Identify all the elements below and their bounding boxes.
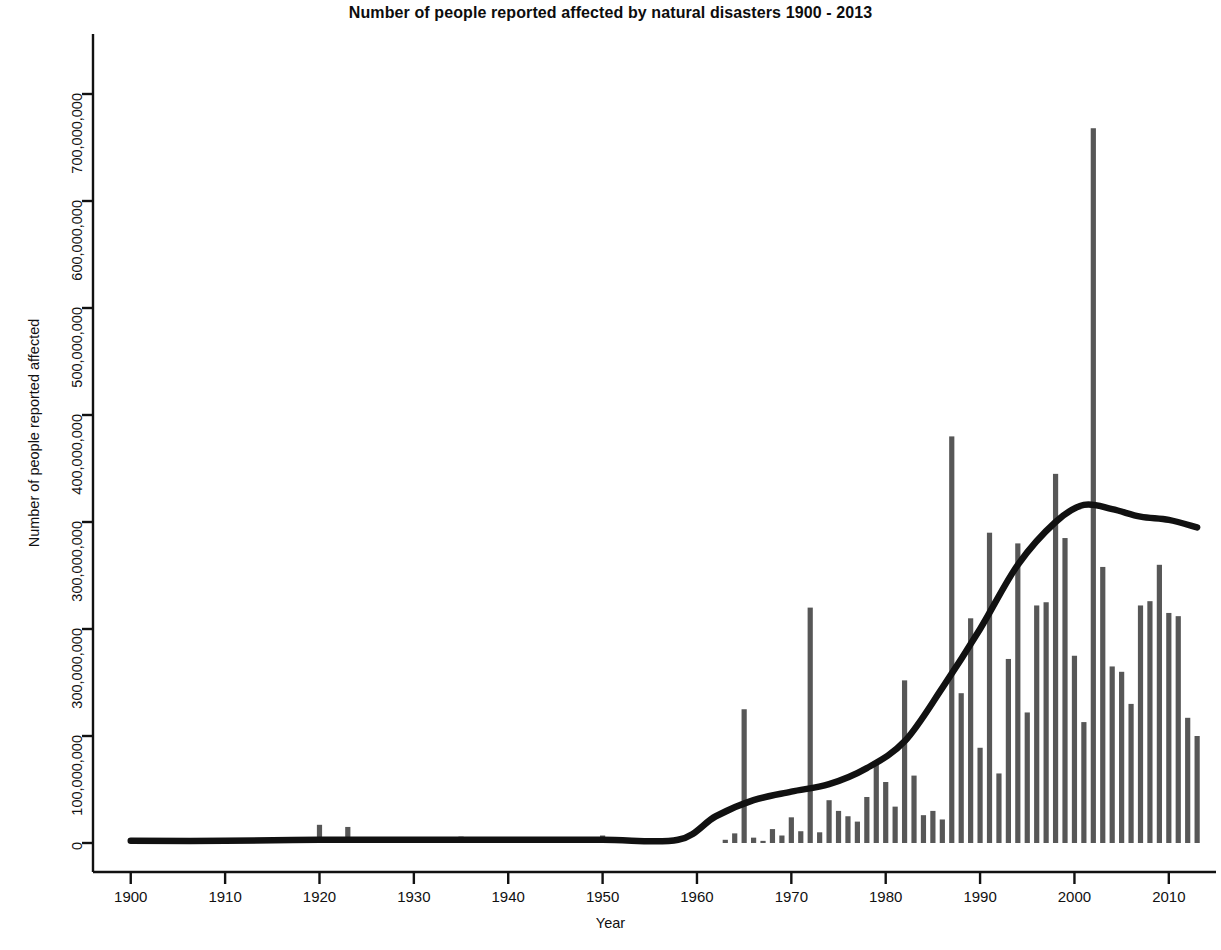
plot-area bbox=[0, 0, 1221, 950]
x-axis-ticks bbox=[131, 872, 1169, 884]
bar bbox=[1053, 474, 1058, 843]
bar bbox=[770, 829, 775, 843]
bar bbox=[911, 776, 916, 843]
y-tick-label: 400,000,000 bbox=[69, 414, 85, 495]
x-tick-label: 1900 bbox=[96, 888, 166, 905]
x-tick-label: 1990 bbox=[945, 888, 1015, 905]
bar bbox=[1034, 605, 1039, 843]
bar bbox=[1044, 602, 1049, 843]
x-tick-label: 1940 bbox=[473, 888, 543, 905]
y-tick-label: 700,000,000 bbox=[69, 93, 85, 174]
bar bbox=[817, 832, 822, 843]
bar bbox=[723, 840, 728, 843]
x-tick-label: 1970 bbox=[756, 888, 826, 905]
bar bbox=[893, 807, 898, 843]
bar bbox=[1110, 666, 1115, 843]
bar bbox=[789, 817, 794, 843]
x-tick-label: 1950 bbox=[568, 888, 638, 905]
bar bbox=[1062, 538, 1067, 843]
bar bbox=[845, 816, 850, 843]
bar bbox=[1157, 565, 1162, 843]
bar bbox=[930, 811, 935, 843]
bar bbox=[1176, 616, 1181, 843]
bar bbox=[883, 782, 888, 843]
bar bbox=[751, 838, 756, 843]
bar bbox=[996, 773, 1001, 843]
bar bbox=[798, 831, 803, 843]
bar bbox=[826, 800, 831, 843]
bar bbox=[864, 797, 869, 843]
bar bbox=[836, 811, 841, 843]
bar bbox=[1166, 613, 1171, 843]
bar bbox=[940, 819, 945, 843]
bar bbox=[1195, 736, 1200, 843]
y-tick-label: 600,000,000 bbox=[69, 200, 85, 281]
y-tick-label: 100,000,000 bbox=[69, 735, 85, 816]
bar bbox=[949, 436, 954, 843]
x-tick-label: 1910 bbox=[190, 888, 260, 905]
bar-series bbox=[317, 128, 1200, 843]
x-tick-label: 2000 bbox=[1039, 888, 1109, 905]
bar bbox=[760, 841, 765, 843]
bar bbox=[874, 763, 879, 843]
x-tick-label: 1980 bbox=[851, 888, 921, 905]
y-tick-label: 0 bbox=[69, 842, 85, 850]
bar bbox=[921, 815, 926, 843]
bar bbox=[1147, 601, 1152, 843]
bar bbox=[1025, 712, 1030, 843]
y-tick-label: 500,000,000 bbox=[69, 307, 85, 388]
x-tick-label: 2010 bbox=[1134, 888, 1204, 905]
bar bbox=[1128, 704, 1133, 843]
x-tick-label: 1960 bbox=[662, 888, 732, 905]
bar bbox=[1119, 672, 1124, 843]
bar bbox=[779, 836, 784, 843]
x-tick-label: 1920 bbox=[284, 888, 354, 905]
bar bbox=[1100, 567, 1105, 843]
bar bbox=[1138, 605, 1143, 843]
bar bbox=[1081, 722, 1086, 843]
bar bbox=[987, 533, 992, 843]
bar bbox=[1015, 543, 1020, 843]
bar bbox=[1006, 659, 1011, 843]
y-tick-label: 300,000,000 bbox=[69, 521, 85, 602]
bar bbox=[1185, 718, 1190, 843]
bar bbox=[1072, 656, 1077, 843]
bar bbox=[959, 693, 964, 843]
bar bbox=[732, 833, 737, 843]
bar bbox=[742, 709, 747, 843]
bar bbox=[1091, 128, 1096, 843]
bar bbox=[855, 822, 860, 843]
chart-figure: Number of people reported affected by na… bbox=[0, 0, 1221, 950]
y-tick-label: 300,000,000 bbox=[69, 628, 85, 709]
bar bbox=[808, 608, 813, 843]
bar bbox=[902, 680, 907, 843]
x-tick-label: 1930 bbox=[379, 888, 449, 905]
bar bbox=[977, 748, 982, 843]
